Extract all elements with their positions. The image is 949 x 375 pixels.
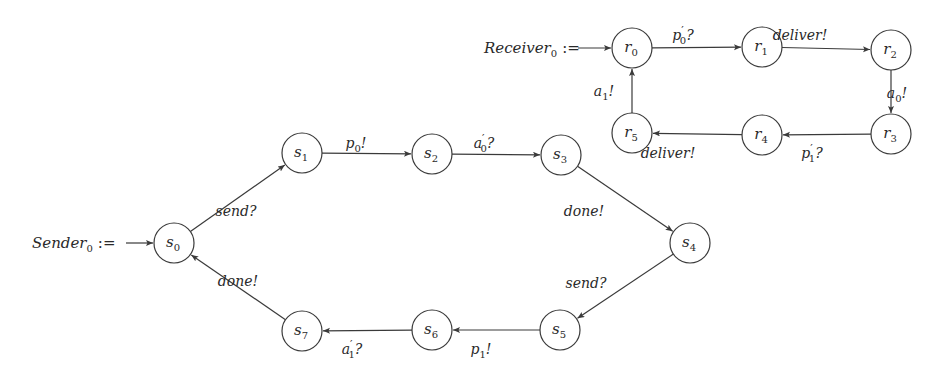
transition-label-s5-s6: p1! — [471, 341, 492, 360]
transition-label-s2-s3: a′0? — [474, 132, 495, 154]
labels-layer: send?p0!a′0?done!send?p1!a′1?done!Sender… — [32, 24, 907, 360]
state-r0: r0 — [612, 28, 652, 68]
state-s1: s1 — [282, 133, 322, 173]
state-s6: s6 — [412, 310, 452, 350]
transition-label-s6-s7: a′1? — [342, 338, 363, 360]
receiver-initial-label: Receiver0:= — [483, 39, 580, 59]
state-machine-diagram: s0s1s2s3s4s5s6s7r0r1r2r3r4r5 send?p0!a′0… — [0, 0, 949, 375]
state-s0: s0 — [154, 223, 194, 263]
state-s4: s4 — [670, 223, 710, 263]
transition-label-s3-s4: done! — [564, 203, 604, 219]
transition-s1-s2 — [322, 153, 411, 154]
state-s7: s7 — [282, 311, 322, 351]
transition-s3-s4 — [578, 166, 673, 231]
sender-initial-label: Sender0:= — [32, 234, 115, 254]
transition-s6-s7 — [323, 330, 412, 331]
state-r3: r3 — [871, 114, 911, 154]
state-r2: r2 — [871, 30, 911, 70]
transition-s0-s1 — [190, 165, 284, 231]
transition-s2-s3 — [452, 154, 540, 155]
state-r4: r4 — [742, 115, 782, 155]
transition-label-s4-s5: send? — [566, 275, 607, 291]
transition-r1-r2 — [782, 48, 870, 50]
transition-label-s0-s1: send? — [216, 203, 257, 219]
transition-r3-r4 — [783, 134, 871, 135]
transition-label-r4-r5: deliver! — [641, 145, 696, 161]
transition-label-r0-r1: p′0? — [672, 24, 694, 46]
nodes-layer: s0s1s2s3s4s5s6s7r0r1r2r3r4r5 — [154, 27, 911, 351]
transition-label-s1-s2: p0! — [346, 135, 367, 154]
state-s5: s5 — [540, 310, 580, 350]
state-s3: s3 — [541, 135, 581, 175]
transition-label-r3-r4: p′1? — [801, 142, 823, 164]
state-s2: s2 — [412, 134, 452, 174]
transition-label-r1-r2: deliver! — [773, 27, 828, 43]
transition-label-r2-r3: a0! — [887, 85, 907, 104]
transition-label-s7-s0: done! — [218, 273, 258, 289]
transition-label-r5-r0: a1! — [594, 83, 614, 102]
transition-r0-r1 — [652, 47, 741, 48]
transition-r4-r5 — [653, 133, 742, 134]
